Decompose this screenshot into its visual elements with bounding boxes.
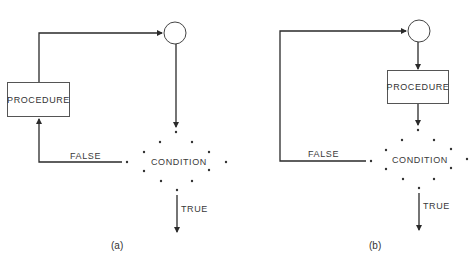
flowchart-canvas: [0, 0, 472, 262]
true-label-b: TRUE: [423, 201, 450, 211]
procedure-label-b: PROCEDURE: [387, 82, 450, 92]
true-label-a: TRUE: [181, 204, 208, 214]
caption-b: (b): [369, 240, 381, 251]
caption-a: (a): [111, 240, 123, 251]
condition-label-b: CONDITION: [392, 155, 448, 165]
connector-circle-a: [164, 22, 186, 44]
condition-label-a: CONDITION: [151, 157, 207, 167]
procedure-box-a: PROCEDURE: [7, 82, 70, 117]
connector-circle-b: [408, 20, 430, 42]
loop-line-a: [39, 33, 162, 82]
false-label-a: FALSE: [70, 151, 101, 161]
procedure-label-a: PROCEDURE: [7, 95, 70, 105]
false-label-b: FALSE: [308, 149, 339, 159]
diagram-b: [280, 20, 468, 230]
diagram-a: [39, 22, 227, 232]
procedure-box-b: PROCEDURE: [387, 70, 449, 104]
